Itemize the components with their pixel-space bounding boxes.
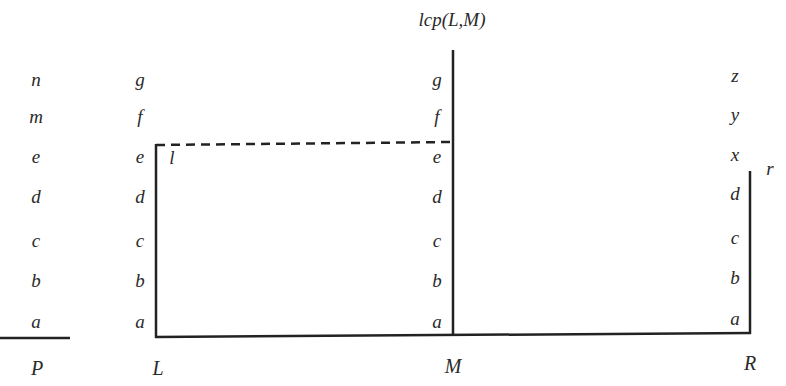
char-label: y	[731, 105, 739, 124]
char-label: b	[432, 271, 442, 290]
char-label: d	[730, 184, 740, 203]
char-label: b	[135, 271, 145, 290]
char-label: b	[730, 268, 740, 287]
l-annotation: l	[169, 148, 174, 167]
char-label: a	[31, 312, 41, 331]
char-label: n	[31, 70, 41, 89]
char-label: c	[136, 231, 144, 250]
char-label: e	[136, 147, 144, 166]
char-label: d	[135, 187, 145, 206]
trie-lcp-diagram: lcp(L,M) n m e d c b a P g f e d c b a L…	[0, 0, 786, 386]
char-label: a	[730, 309, 740, 328]
lcp-title: lcp(L,M)	[418, 10, 485, 29]
char-label: z	[731, 66, 738, 85]
diagram-lines	[0, 0, 786, 386]
char-label: g	[432, 70, 442, 89]
char-label: a	[432, 312, 442, 331]
char-label: c	[731, 228, 739, 247]
char-label: f	[434, 107, 439, 126]
char-label: e	[433, 147, 441, 166]
char-label: g	[135, 70, 145, 89]
char-label: d	[31, 187, 41, 206]
lcp-dashed-line	[156, 142, 453, 145]
column-name-l: L	[152, 358, 163, 378]
char-label: m	[29, 107, 43, 126]
char-label: c	[433, 231, 441, 250]
char-label: b	[31, 271, 41, 290]
column-name-r: R	[744, 353, 756, 373]
char-label: c	[32, 231, 40, 250]
char-label: e	[32, 147, 40, 166]
r-annotation: r	[766, 159, 773, 178]
column-name-p: P	[31, 358, 43, 378]
char-label: a	[135, 312, 145, 331]
column-name-m: M	[445, 356, 462, 376]
char-label: f	[137, 107, 142, 126]
char-label: x	[731, 145, 739, 164]
char-label: d	[432, 187, 442, 206]
